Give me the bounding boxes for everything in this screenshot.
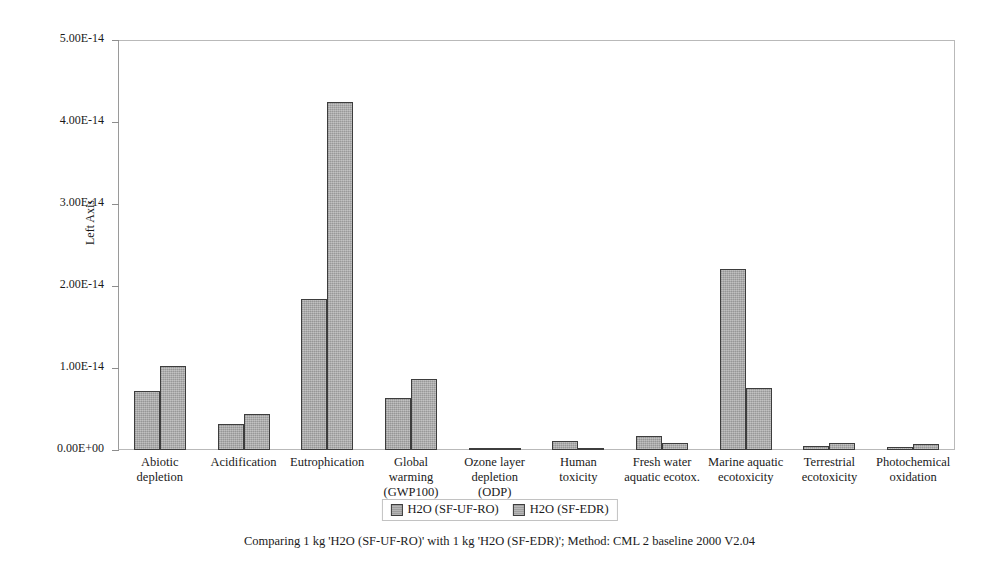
x-axis-label-line: Global <box>369 455 453 470</box>
bar <box>218 424 244 450</box>
y-axis-tick-mark <box>112 450 119 451</box>
chart-container: Left Axis 0.00E+001.00E-142.00E-143.00E-… <box>0 0 999 571</box>
x-axis-label: Terrestrialecotoxicity <box>788 455 872 485</box>
x-axis-label-line: Terrestrial <box>788 455 872 470</box>
bar <box>746 388 772 450</box>
bar <box>160 366 186 450</box>
bar <box>578 448 604 450</box>
y-axis-tick-label: 1.00E-14 <box>60 359 104 374</box>
legend-label: H2O (SF-UF-RO) <box>407 502 498 517</box>
bar-group <box>704 40 788 450</box>
x-axis-label: Photochemicaloxidation <box>871 455 955 485</box>
bar-group <box>202 40 286 450</box>
bar-group <box>118 40 202 450</box>
x-axis-label: Fresh wateraquatic ecotox. <box>620 455 704 485</box>
bar-group <box>620 40 704 450</box>
bar <box>244 414 270 450</box>
chart-caption: Comparing 1 kg 'H2O (SF-UF-RO)' with 1 k… <box>0 534 999 549</box>
bar <box>552 441 578 450</box>
bar <box>887 447 913 450</box>
bar-group <box>369 40 453 450</box>
x-axis-label-line: oxidation <box>871 470 955 485</box>
bar <box>301 299 327 450</box>
bar <box>803 446 829 450</box>
legend-item[interactable]: H2O (SF-EDR) <box>513 502 609 517</box>
x-axis-label-line: Ozone layer <box>453 455 537 470</box>
chart-legend: H2O (SF-UF-RO)H2O (SF-EDR) <box>381 499 617 521</box>
x-axis-label: Ozone layerdepletion(ODP) <box>453 455 537 500</box>
x-axis-label-line: (GWP100) <box>369 485 453 500</box>
x-axis-label: Marine aquaticecotoxicity <box>704 455 788 485</box>
x-axis-label-line: Human <box>537 455 621 470</box>
y-axis-tick-label: 0.00E+00 <box>57 441 104 456</box>
x-axis-label-line: Fresh water <box>620 455 704 470</box>
legend-swatch-icon <box>390 504 402 516</box>
y-axis-tick-label: 3.00E-14 <box>60 195 104 210</box>
legend-swatch-icon <box>513 504 525 516</box>
bar <box>495 448 521 450</box>
x-axis-label-line: Photochemical <box>871 455 955 470</box>
bar-group <box>285 40 369 450</box>
x-axis-label: Eutrophication <box>285 455 369 470</box>
x-axis-label-line: ecotoxicity <box>788 470 872 485</box>
bar-group <box>453 40 537 450</box>
bar <box>662 443 688 450</box>
bars-layer <box>118 40 955 450</box>
x-axis-label-line: Marine aquatic <box>704 455 788 470</box>
legend-item[interactable]: H2O (SF-UF-RO) <box>390 502 498 517</box>
legend-label: H2O (SF-EDR) <box>530 502 609 517</box>
x-axis-label-line: (ODP) <box>453 485 537 500</box>
y-axis-tick-label: 4.00E-14 <box>60 113 104 128</box>
x-axis-label-line: Abiotic <box>118 455 202 470</box>
x-axis-label-line: depletion <box>453 470 537 485</box>
x-axis-label: Abioticdepletion <box>118 455 202 485</box>
bar <box>720 269 746 450</box>
x-axis-label: Acidification <box>202 455 286 470</box>
x-axis-label-line: aquatic ecotox. <box>620 470 704 485</box>
bar <box>411 379 437 450</box>
x-axis-label-line: depletion <box>118 470 202 485</box>
bar <box>913 444 939 450</box>
bar <box>134 391 160 450</box>
bar-group <box>871 40 955 450</box>
bar-group <box>537 40 621 450</box>
bar <box>385 398 411 450</box>
y-axis-tick-label: 5.00E-14 <box>60 31 104 46</box>
bar <box>327 102 353 450</box>
x-axis-label-line: warming <box>369 470 453 485</box>
bar <box>636 436 662 450</box>
x-axis-label-line: toxicity <box>537 470 621 485</box>
y-axis-tick-label: 2.00E-14 <box>60 277 104 292</box>
x-axis-label: Globalwarming(GWP100) <box>369 455 453 500</box>
x-axis-label: Humantoxicity <box>537 455 621 485</box>
bar <box>829 443 855 450</box>
bar-group <box>788 40 872 450</box>
x-axis-label-line: Eutrophication <box>285 455 369 470</box>
x-axis-label-line: Acidification <box>202 455 286 470</box>
y-axis-title: Left Axis <box>83 163 98 283</box>
x-axis-label-line: ecotoxicity <box>704 470 788 485</box>
bar <box>469 448 495 450</box>
